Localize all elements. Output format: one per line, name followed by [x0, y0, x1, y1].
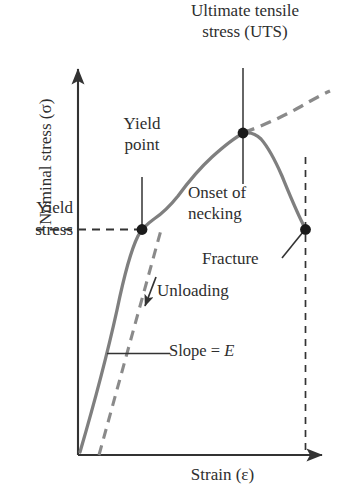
fracture-annotation-text: Fracture — [202, 249, 259, 268]
yield-stress-annotation-line2: stress — [3, 221, 73, 239]
yield-point-marker — [137, 224, 148, 235]
uts-point-marker — [238, 128, 249, 139]
true-stress-continuation-curve — [244, 91, 330, 133]
unloading-annotation-text: Unloading — [157, 281, 229, 300]
yield-stress-annotation: Yield stress — [3, 199, 73, 238]
uts-annotation: Ultimate tensile stress (UTS) — [152, 2, 338, 40]
yield-stress-annotation-line1: Yield — [3, 199, 73, 217]
fracture-leader-line — [282, 232, 303, 258]
x-axis-label-text: Strain (ε) — [191, 465, 254, 484]
unloading-arrow — [145, 277, 156, 306]
uts-annotation-line1: Ultimate tensile — [152, 2, 338, 20]
x-axis-label: Strain (ε) — [150, 466, 295, 484]
stress-strain-diagram: Nominal stress (σ) Strain (ε) Ultimate t… — [0, 0, 347, 498]
necking-annotation: Onset of necking — [188, 184, 246, 222]
unloading-annotation: Unloading — [157, 282, 229, 300]
uts-annotation-line2: stress (UTS) — [152, 23, 338, 41]
yield-point-annotation-line1: Yield — [100, 115, 184, 133]
yield-point-annotation: Yield point — [100, 115, 184, 153]
yield-point-annotation-line2: point — [100, 136, 184, 154]
necking-annotation-line1: Onset of — [188, 184, 246, 202]
necking-annotation-line2: necking — [188, 205, 246, 223]
fracture-annotation: Fracture — [202, 250, 259, 268]
slope-annotation: Slope = E — [169, 342, 234, 359]
fracture-point-marker — [300, 224, 311, 235]
slope-annotation-text: Slope = — [169, 341, 224, 360]
slope-annotation-symbol: E — [224, 341, 234, 360]
